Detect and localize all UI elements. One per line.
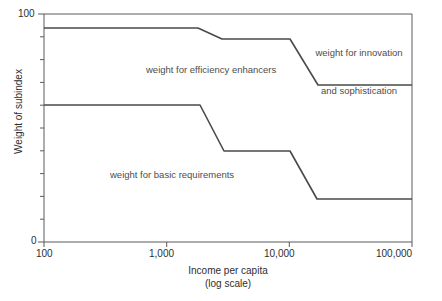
annotation-innovation-line1: weight for innovation	[300, 47, 418, 60]
y-axis-title: Weight of subindex	[13, 42, 24, 182]
y-axis-ticks	[38, 14, 44, 242]
annotation-efficiency-enhancers: weight for efficiency enhancers	[146, 64, 276, 77]
y-axis-max-label: 100	[18, 8, 35, 19]
chart-container: 100 0 Weight of subindex 100 1,000 10,00…	[0, 0, 442, 301]
annotation-innovation-sophistication: weight for innovation and sophistication	[300, 22, 418, 122]
x-axis-title-block: Income per capita (log scale)	[44, 264, 412, 290]
annotation-basic-requirements: weight for basic requirements	[110, 169, 234, 182]
x-axis-tick-label-100: 100	[36, 248, 53, 259]
x-axis-ticks	[44, 242, 412, 247]
x-axis-tick-label-1000: 1,000	[149, 248, 174, 259]
x-axis-title-scale-note: (log scale)	[44, 277, 412, 290]
x-axis-tick-label-10000: 10,000	[264, 248, 295, 259]
annotation-innovation-line2: and sophistication	[300, 85, 418, 98]
x-axis-title: Income per capita	[44, 264, 412, 277]
y-axis-min-label: 0	[31, 235, 37, 246]
x-axis-tick-label-100000: 100,000	[376, 248, 412, 259]
